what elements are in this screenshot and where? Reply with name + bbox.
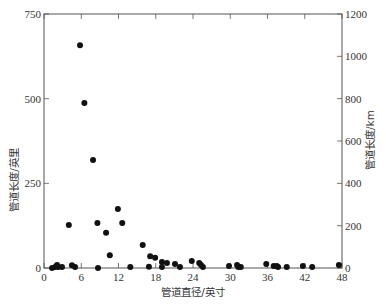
data-point bbox=[263, 261, 269, 267]
data-point bbox=[77, 42, 83, 48]
x-axis-title: 管道直径/英寸 bbox=[161, 286, 225, 298]
x-tick-label: 6 bbox=[79, 271, 85, 283]
y2-tick-label: 0 bbox=[345, 262, 351, 274]
data-point bbox=[90, 157, 96, 163]
y-tick-label: 0 bbox=[36, 262, 42, 274]
data-point bbox=[177, 264, 183, 270]
data-point bbox=[164, 260, 170, 266]
data-point bbox=[146, 264, 152, 270]
axis-ticks: 0612182430364248025050075002004006008001… bbox=[25, 8, 368, 283]
y-axis-title-left: 管道长度/英里 bbox=[8, 148, 20, 212]
x-tick-label: 12 bbox=[113, 271, 124, 283]
data-point bbox=[119, 220, 125, 226]
plot-frame bbox=[44, 14, 342, 268]
plot-border bbox=[44, 14, 342, 268]
y2-tick-label: 400 bbox=[345, 177, 362, 189]
x-tick-label: 18 bbox=[150, 271, 162, 283]
data-point bbox=[115, 206, 121, 212]
y2-tick-label: 1200 bbox=[345, 8, 368, 20]
y2-tick-label: 800 bbox=[345, 93, 362, 105]
data-point bbox=[336, 262, 342, 268]
data-point bbox=[103, 230, 109, 236]
data-point bbox=[200, 264, 206, 270]
y2-tick-label: 200 bbox=[345, 220, 362, 232]
data-points bbox=[49, 42, 342, 271]
x-tick-label: 24 bbox=[188, 271, 200, 283]
data-point bbox=[300, 263, 306, 269]
data-point bbox=[66, 222, 72, 228]
y2-tick-label: 600 bbox=[345, 135, 362, 147]
x-tick-label: 0 bbox=[41, 271, 47, 283]
x-tick-label: 30 bbox=[225, 271, 237, 283]
y-axis-title-right: 管道长度/km bbox=[364, 110, 376, 170]
data-point bbox=[95, 265, 101, 271]
y-tick-label: 250 bbox=[25, 177, 42, 189]
data-point bbox=[309, 264, 315, 270]
y-tick-label: 750 bbox=[25, 8, 42, 20]
data-point bbox=[226, 263, 232, 269]
data-point bbox=[189, 258, 195, 264]
y-tick-label: 500 bbox=[25, 93, 42, 105]
data-point bbox=[152, 255, 158, 261]
data-point bbox=[172, 261, 178, 267]
data-point bbox=[81, 100, 87, 106]
x-tick-label: 42 bbox=[299, 271, 310, 283]
data-point bbox=[238, 264, 244, 270]
y2-tick-label: 1000 bbox=[345, 50, 368, 62]
scatter-chart: 0612182430364248025050075002004006008001… bbox=[0, 0, 386, 305]
data-point bbox=[127, 264, 133, 270]
data-point bbox=[284, 264, 290, 270]
data-point bbox=[140, 242, 146, 248]
data-point bbox=[159, 264, 165, 270]
data-point bbox=[107, 252, 113, 258]
data-point bbox=[275, 264, 281, 270]
data-point bbox=[72, 264, 78, 270]
data-point bbox=[94, 220, 100, 226]
x-tick-label: 36 bbox=[262, 271, 274, 283]
data-point bbox=[59, 264, 65, 270]
